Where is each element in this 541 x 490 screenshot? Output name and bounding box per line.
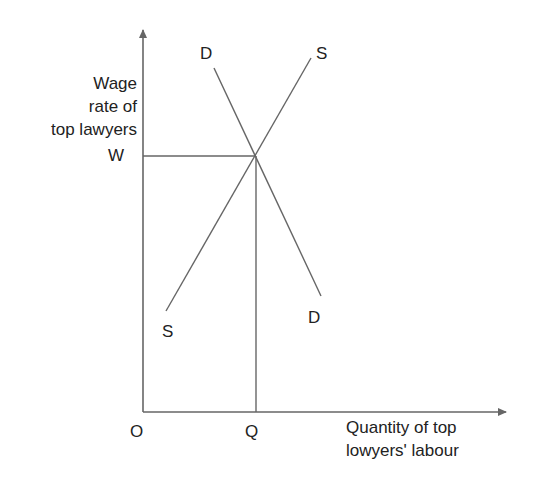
demand-label-top: D [200,45,212,62]
origin-label: O [130,423,143,440]
x-axis-label-line-2: lowyers' labour [346,439,459,462]
y-axis-label-line-1: Wage [51,72,137,95]
quantity-label: Q [245,423,258,440]
supply-label-top: S [316,45,327,62]
demand-label-bottom: D [308,309,320,326]
supply-curve [166,58,311,311]
wage-label: W [108,147,124,164]
supply-label-bottom: S [162,323,173,340]
demand-curve [214,68,321,296]
x-axis-label-line-1: Quantity of top [346,416,459,439]
y-axis-label-line-3: top lawyers [51,118,137,141]
x-axis-label: Quantity of top lowyers' labour [346,416,459,462]
y-axis-label: Wage rate of top lawyers [51,72,137,141]
y-axis-label-line-2: rate of [51,95,137,118]
